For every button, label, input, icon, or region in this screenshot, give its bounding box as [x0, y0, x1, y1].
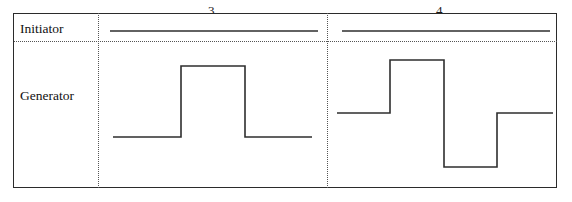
row-label-initiator: Initiator: [20, 22, 64, 36]
row-label-generator: Generator: [20, 89, 74, 103]
divider-panel-3-4: [327, 13, 328, 188]
divider-initiator-generator: [14, 41, 557, 42]
diagram-frame: [13, 13, 557, 188]
timing-diagram-figure: 3. 4. Initiator Generator: [0, 0, 572, 202]
divider-label-column: [98, 13, 99, 188]
